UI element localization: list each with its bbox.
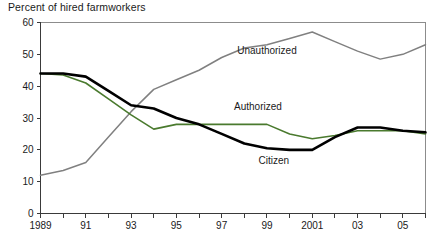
series-line-citizen: [41, 73, 426, 149]
y-axis-ticks: 0102030405060: [22, 17, 40, 219]
x-tick-label: 99: [261, 220, 273, 231]
chart-figure: Percent of hired farmworkers 01020304050…: [0, 0, 433, 240]
y-tick-label: 50: [22, 49, 34, 60]
series-line-unauthorized: [41, 32, 426, 175]
y-tick-label: 20: [22, 144, 34, 155]
line-chart-plot: 0102030405060 1989919395979920010305 Una…: [0, 0, 433, 240]
y-tick-label: 0: [28, 208, 34, 219]
y-tick-label: 40: [22, 81, 34, 92]
x-tick-label: 1989: [29, 220, 52, 231]
x-tick-label: 05: [397, 220, 409, 231]
x-tick-label: 97: [216, 220, 228, 231]
x-axis-ticks: 1989919395979920010305: [29, 214, 425, 231]
y-tick-label: 30: [22, 113, 34, 124]
x-tick-label: 91: [80, 220, 92, 231]
x-tick-label: 95: [171, 220, 183, 231]
plot-frame: [41, 23, 426, 214]
series-label-citizen: Citizen: [258, 155, 289, 166]
y-tick-label: 60: [22, 17, 34, 28]
y-tick-label: 10: [22, 176, 34, 187]
x-tick-label: 03: [352, 220, 364, 231]
data-series-group: [41, 32, 426, 175]
x-tick-label: 93: [126, 220, 138, 231]
x-tick-label: 2001: [301, 220, 324, 231]
series-label-authorized: Authorized: [234, 101, 282, 112]
series-label-unauthorized: Unauthorized: [237, 45, 296, 56]
